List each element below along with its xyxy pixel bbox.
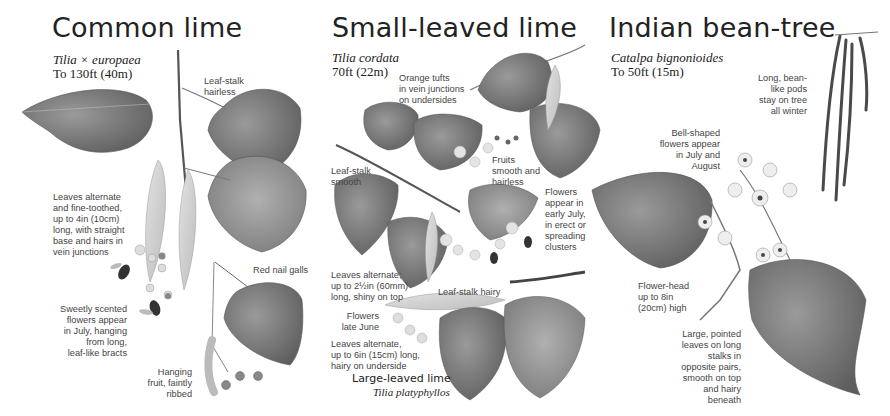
note-hanging-fruit: Hanging fruit, faintly ribbed xyxy=(146,367,192,400)
height-indian-bean-tree: To 50ft (15m) xyxy=(611,64,684,80)
note-leaves-alternate-small: Leaves alternate; up to 2½in (60mm) long… xyxy=(331,270,408,303)
note-flowers-late-june: Flowers late June xyxy=(338,311,379,333)
large-lime-leaf xyxy=(504,296,585,398)
note-large-pointed-leaves: Large, pointed leaves on long stalks in … xyxy=(670,329,741,406)
common-lime-gall-leaf xyxy=(224,283,303,365)
bee-icon xyxy=(110,262,133,282)
catalpa-leaf-left xyxy=(592,172,712,268)
height-small-leaved-lime: 70ft (22m) xyxy=(332,64,388,80)
note-leaves-alternate-large: Leaves alternate, up to 6in (15cm) long,… xyxy=(331,339,420,372)
panel-title-indian-bean-tree: Indian bean-tree xyxy=(609,12,836,43)
small-lime-leaf xyxy=(468,184,538,240)
small-lime-leaf xyxy=(364,102,418,150)
subspecies-latin-large-leaved-lime: Tilia platyphyllos xyxy=(373,386,450,398)
note-flowers-early-july: Flowers appear in early July, in erect o… xyxy=(545,187,586,253)
panel-title-small-leaved-lime: Small-leaved lime xyxy=(332,12,577,43)
panel-title-common-lime: Common lime xyxy=(52,12,242,43)
subspecies-title-large-leaved-lime: Large-leaved lime xyxy=(352,372,451,385)
catalpa-leaf-right xyxy=(749,260,866,395)
small-lime-leaf xyxy=(530,103,600,178)
note-leaf-stalk-hairless: Leaf-stalk hairless xyxy=(204,76,244,98)
bee-icon xyxy=(490,236,532,264)
height-common-lime: To 130ft (40m) xyxy=(53,66,132,82)
note-leaf-stalk-smooth: Leaf-stalk smooth xyxy=(331,166,371,188)
common-lime-leaf-lower-right xyxy=(208,156,306,252)
bee-icon xyxy=(139,299,163,317)
note-red-nail-galls: Red nail galls xyxy=(253,265,308,276)
note-long-bean-pods: Long, bean- like pods stay on tree all w… xyxy=(740,73,807,117)
common-lime-leaf-left xyxy=(22,90,152,153)
small-lime-leaf xyxy=(478,53,552,112)
note-leaves-alternate: Leaves alternate and fine-toothed, up to… xyxy=(53,192,125,258)
note-fruits-smooth: Fruits smooth and hairless xyxy=(492,155,540,188)
note-bell-shaped-flowers: Bell-shaped flowers appear in July and A… xyxy=(657,128,720,172)
note-flower-head: Flower-head up to 8in (20cm) high xyxy=(638,281,689,314)
note-leaf-stalk-hairy: Leaf-stalk hairy xyxy=(438,287,500,298)
note-orange-tufts: Orange tufts in vein junctions on unders… xyxy=(399,73,464,106)
note-sweetly-scented-flowers: Sweetly scented flowers appear in July, … xyxy=(56,304,127,359)
